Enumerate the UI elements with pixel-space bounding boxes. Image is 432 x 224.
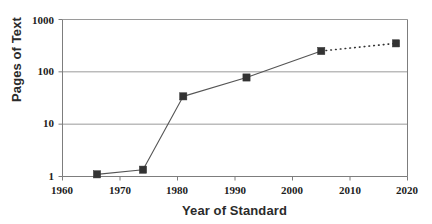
data-point-marker-2018: [392, 40, 399, 47]
data-point-marker-1974: [139, 166, 146, 173]
plot-area: [0, 0, 432, 224]
data-segment-3-solid: [247, 51, 322, 77]
chart-figure: Pages of Text 1000 100 10 1 1960 1970 19…: [0, 0, 432, 224]
data-segment-0-solid: [97, 170, 143, 175]
data-segment-1-solid: [143, 96, 183, 169]
data-segment-4-dotted: [321, 43, 396, 51]
data-point-marker-1966: [93, 171, 100, 178]
data-point-marker-1981: [180, 93, 187, 100]
data-point-marker-1992: [243, 74, 250, 81]
axis-ticks-group: [59, 20, 408, 181]
data-line-group: [97, 43, 396, 174]
data-point-marker-2005: [318, 47, 325, 54]
axis-lines-group: [63, 20, 408, 177]
data-markers-group: [93, 40, 399, 178]
gridlines-group: [63, 20, 408, 177]
data-segment-2-solid: [183, 77, 246, 96]
